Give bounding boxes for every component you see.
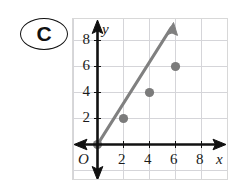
data-point-markers <box>93 62 180 149</box>
data-point <box>119 114 128 123</box>
x-tick-label-4: 4 <box>144 152 152 167</box>
x-tick-label-6: 6 <box>170 152 178 167</box>
option-letter: C <box>36 23 51 44</box>
x-axis-label: x <box>216 152 223 167</box>
y-tick-label-2: 2 <box>72 110 90 125</box>
y-tick-label-6: 6 <box>72 58 90 73</box>
data-point <box>145 88 154 97</box>
y-axis <box>92 20 103 180</box>
y-tick-label-4: 4 <box>72 84 90 99</box>
x-tick-label-8: 8 <box>196 152 204 167</box>
y-tick-label-8: 8 <box>72 32 90 47</box>
graph-figure: C <box>0 0 240 186</box>
origin-label: O <box>78 152 89 167</box>
data-point <box>171 62 180 71</box>
y-axis-label: y <box>102 22 109 37</box>
x-tick-label-2: 2 <box>118 152 126 167</box>
option-label-oval: C <box>20 18 68 50</box>
